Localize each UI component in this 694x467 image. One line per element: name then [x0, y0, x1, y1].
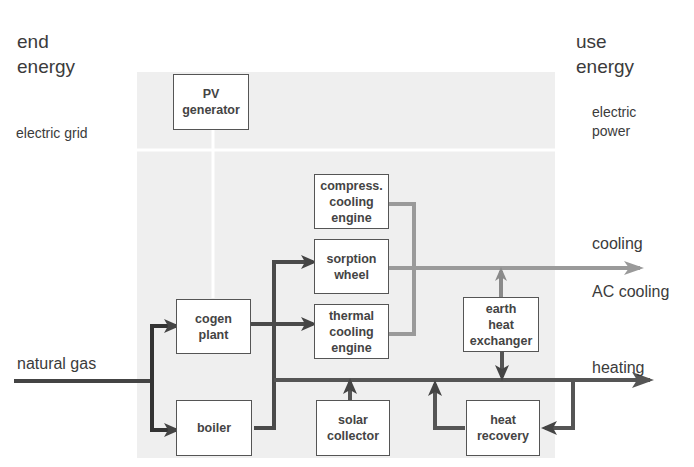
thermal-cooling-engine-box: thermalcoolingengine — [314, 304, 389, 359]
pv-generator-box: PVgenerator — [173, 74, 249, 130]
recovery-to-heating-loop — [435, 384, 465, 428]
cogen-plant-box: cogenplant — [176, 299, 251, 354]
heating-to-recovery-loop — [545, 380, 573, 428]
solar-collector-box: solarcollector — [316, 400, 390, 456]
use-energy-heading-line1: use — [576, 30, 607, 54]
compress-cooling-engine-box: compress.coolingengine — [314, 174, 389, 229]
heating-label: heating — [592, 358, 645, 378]
electric-power-label-line1: electric — [592, 103, 636, 121]
cooling-label: cooling — [592, 234, 643, 254]
sorption-wheel-box: sorptionwheel — [314, 239, 389, 294]
natural-gas-label: natural gas — [17, 354, 96, 374]
use-energy-heading-line2: energy — [576, 55, 634, 79]
heat-recovery-box: heatrecovery — [466, 400, 540, 456]
end-energy-heading-line1: end — [17, 30, 49, 54]
end-energy-heading-line2: energy — [17, 55, 75, 79]
electric-grid-label: electric grid — [16, 124, 88, 142]
electric-power-label-line2: power — [592, 122, 630, 140]
earth-heat-exchanger-box: earthheatexchanger — [463, 297, 539, 352]
ac-cooling-label: AC cooling — [592, 282, 669, 302]
boiler-box: boiler — [176, 400, 252, 456]
